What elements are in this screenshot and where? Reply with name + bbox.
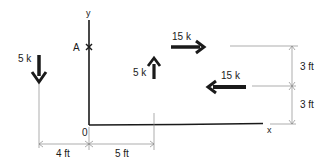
dimension-upper-3ft-label: 3 ft [300,61,314,72]
vertical-dimension [230,46,298,124]
dimension-lower-3ft-label: 3 ft [300,99,314,110]
force-15k-right-arrow [171,41,204,53]
y-axis-label: y [86,8,91,18]
origin-label: 0 [82,127,88,138]
horizontal-dimension [39,113,154,150]
force-15k-left-label: 15 k [221,70,241,81]
force-15k-right-label: 15 k [172,31,192,42]
x-axis: x [89,124,272,136]
force-5k-down-arrow [32,55,46,148]
force-15k-left-arrow [208,81,246,93]
force-5k-down-label: 5 k [18,53,32,64]
y-axis: y [86,8,91,125]
force-diagram: y A x 0 5 k 5 k 15 k 15 k [0,0,328,164]
dimension-5ft-label: 5 ft [115,148,129,159]
point-a-label: A [73,42,80,53]
dimension-4ft-label: 4 ft [56,148,70,159]
x-axis-label: x [267,125,272,135]
force-5k-up-arrow [148,58,160,79]
force-5k-up-label: 5 k [133,67,147,78]
